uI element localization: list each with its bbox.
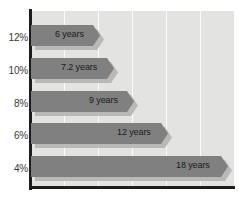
y-tick-label-4: 4% [14, 163, 28, 174]
x-axis-line [29, 186, 235, 189]
bar-value-label: 18 years [176, 160, 210, 171]
bar-value-label: 9 years [89, 95, 118, 106]
y-tick-label-0: 12% [9, 32, 28, 43]
bar-chart: 12% 10% 8% 6% 4% 6 years 7.2 years 9 yea… [0, 0, 239, 206]
bar-9-years[interactable] [31, 91, 134, 112]
plot-area: 6 years 7.2 years 9 years 12 years 18 ye… [31, 11, 234, 188]
y-axis-tick-labels: 12% 10% 8% 6% 4% [0, 0, 31, 206]
bar-value-label: 6 years [55, 29, 84, 40]
y-tick-label-1: 10% [9, 65, 28, 76]
y-tick-label-2: 8% [14, 98, 28, 109]
y-tick-label-3: 6% [14, 130, 28, 141]
bar-value-label: 7.2 years [61, 62, 97, 73]
bar-value-label: 12 years [117, 127, 151, 138]
